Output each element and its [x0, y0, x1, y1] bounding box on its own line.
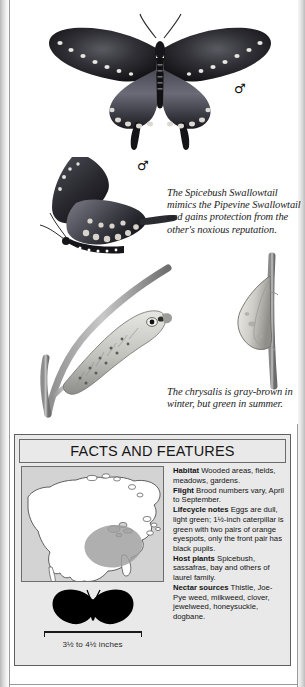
butterfly-silhouette-icon — [47, 588, 139, 630]
caption-chrysalis: The chrysalis is gray-brown in winter, b… — [167, 386, 299, 411]
male-symbol-lateral: ♂ — [137, 159, 149, 172]
fact-label-habitat: Habitat — [173, 466, 199, 475]
scale-label: 3½ to 4½ inches — [62, 640, 122, 649]
page-rule-bottom — [9, 684, 298, 685]
scale-bracket — [44, 631, 142, 638]
fact-item-lifecycle-notes: Lifecycle notes Eggs are dull, light gre… — [173, 505, 284, 553]
fact-label-nectar-sources: Nectar sources — [173, 583, 229, 592]
fact-item-flight: Flight Brood numbers vary, April to Sept… — [173, 486, 284, 505]
illustration-plate: ♂ — [10, 0, 298, 424]
fact-item-habitat: Habitat Wooded areas, fields, meadows, g… — [173, 466, 284, 485]
facts-header: FACTS AND FEATURES — [19, 439, 286, 463]
facts-header-title: FACTS AND FEATURES — [70, 443, 234, 459]
field-guide-page: ♂ — [0, 0, 305, 687]
fact-label-flight: Flight — [173, 486, 194, 495]
chrysalis-illustration — [216, 252, 294, 392]
range-map — [21, 466, 164, 582]
page-gutter-left — [0, 0, 9, 687]
fact-item-nectar-sources: Nectar sources Thistle, Joe-Pye weed, mi… — [173, 583, 284, 621]
caption-mimicry: The Spicebush Swallowtail mimics the Pip… — [167, 187, 301, 237]
facts-right-column: Habitat Wooded areas, fields, meadows, g… — [173, 466, 286, 662]
facts-list: Habitat Wooded areas, fields, meadows, g… — [173, 466, 284, 622]
facts-left-column: 3½ to 4½ inches — [19, 466, 167, 662]
fact-label-lifecycle-notes: Lifecycle notes — [173, 505, 229, 514]
page-gutter-right — [298, 0, 305, 687]
facts-and-features-box: FACTS AND FEATURES — [14, 434, 291, 666]
male-symbol-dorsal: ♂ — [234, 82, 246, 95]
facts-body: 3½ to 4½ inches Habitat Wooded areas, fi… — [19, 466, 286, 662]
fact-label-host-plants: Host plants — [173, 554, 215, 563]
fact-item-host-plants: Host plants Spicebush, sassafras, bay an… — [173, 554, 284, 583]
size-scale: 3½ to 4½ inches — [21, 588, 164, 658]
